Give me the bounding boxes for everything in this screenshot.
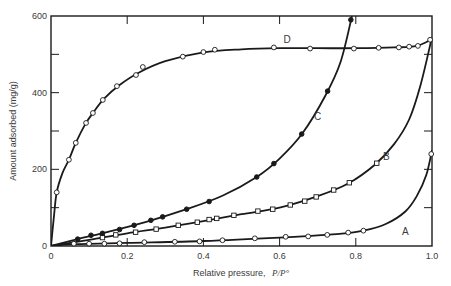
- marker-c: [100, 231, 105, 236]
- marker-c: [272, 161, 277, 166]
- y-tick-label: 600: [32, 11, 47, 21]
- marker-c: [207, 199, 212, 204]
- marker-d: [73, 140, 78, 145]
- marker-b: [271, 207, 275, 211]
- marker-a: [197, 239, 202, 244]
- x-axis-label-symbol: P/P°: [271, 268, 289, 278]
- marker-a: [102, 241, 107, 246]
- marker-b: [303, 199, 307, 203]
- marker-d: [407, 44, 412, 49]
- marker-a: [252, 236, 257, 241]
- marker-b: [114, 233, 118, 237]
- series-markers: [54, 18, 433, 247]
- marker-c: [132, 223, 137, 228]
- marker-d: [351, 46, 356, 51]
- marker-a: [117, 241, 122, 246]
- marker-d: [396, 45, 401, 50]
- marker-a: [220, 238, 225, 243]
- marker-d: [67, 157, 72, 162]
- marker-a: [346, 230, 351, 235]
- marker-d: [91, 111, 96, 116]
- marker-d: [100, 98, 105, 103]
- marker-c: [184, 207, 189, 212]
- marker-c: [75, 237, 80, 242]
- y-tick-label: 0: [42, 241, 47, 251]
- marker-c: [117, 227, 122, 232]
- series-label-b: B: [383, 151, 390, 162]
- marker-b: [207, 217, 211, 221]
- marker-a: [87, 241, 92, 246]
- marker-b: [256, 209, 260, 213]
- series-curves: [51, 16, 432, 246]
- marker-d: [376, 45, 381, 50]
- series-label-d: D: [284, 34, 291, 45]
- x-tick-label: 0.4: [197, 251, 210, 261]
- marker-a: [71, 241, 76, 246]
- marker-d: [134, 73, 139, 78]
- x-tick-label: 0: [48, 251, 53, 261]
- marker-d: [180, 54, 185, 59]
- x-axis-label-text: Relative pressure,: [193, 268, 266, 278]
- marker-c: [254, 175, 259, 180]
- marker-d: [115, 84, 120, 89]
- x-axis-label: Relative pressure, P/P°: [193, 268, 290, 278]
- marker-b: [215, 216, 219, 220]
- marker-a: [142, 240, 147, 245]
- marker-d: [416, 44, 421, 49]
- y-tick-label: 200: [32, 164, 47, 174]
- marker-a: [429, 152, 434, 157]
- marker-b: [288, 203, 292, 207]
- x-tick-label: 0.2: [121, 251, 134, 261]
- series-label-a: A: [402, 226, 409, 237]
- marker-b: [232, 213, 236, 217]
- marker-c: [325, 89, 330, 94]
- adsorption-isotherm-chart: 00.20.40.60.81.00200400600 ABCD Amount a…: [0, 0, 451, 286]
- marker-b: [347, 181, 351, 185]
- y-tick-label: 400: [32, 88, 47, 98]
- y-axis-label: Amount adsorbed (mg/g): [8, 81, 18, 181]
- marker-b: [375, 161, 379, 165]
- plot-frame: [51, 16, 432, 246]
- marker-b: [195, 220, 199, 224]
- marker-c: [349, 18, 354, 23]
- marker-d: [428, 37, 433, 42]
- marker-d: [140, 65, 145, 70]
- curve-b: [51, 37, 432, 246]
- marker-d: [271, 45, 276, 50]
- marker-c: [160, 215, 165, 220]
- x-tick-label: 0.8: [350, 251, 363, 261]
- marker-c: [89, 233, 94, 238]
- marker-d: [308, 46, 313, 51]
- marker-b: [133, 230, 137, 234]
- marker-d: [201, 50, 206, 55]
- marker-b: [314, 195, 318, 199]
- marker-c: [299, 132, 304, 137]
- marker-a: [361, 228, 366, 233]
- marker-a: [325, 232, 330, 237]
- marker-d: [54, 190, 59, 195]
- x-tick-label: 0.6: [273, 251, 286, 261]
- x-tick-label: 1.0: [426, 251, 439, 261]
- marker-a: [283, 234, 288, 239]
- marker-d: [84, 121, 89, 126]
- marker-b: [332, 188, 336, 192]
- marker-b: [154, 227, 158, 231]
- marker-a: [172, 239, 177, 244]
- series-label-c: C: [314, 111, 321, 122]
- marker-c: [149, 218, 154, 223]
- marker-a: [306, 234, 311, 239]
- marker-d: [212, 47, 217, 52]
- marker-b: [176, 223, 180, 227]
